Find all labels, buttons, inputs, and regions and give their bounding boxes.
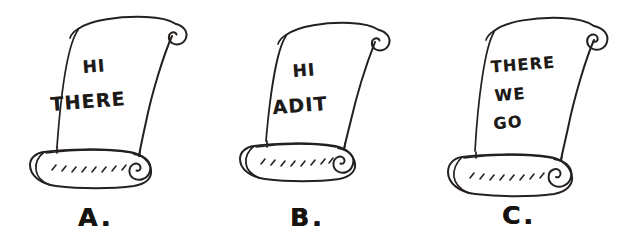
scroll-figure-a: HI THERE A. [0,0,214,252]
figure-label-c: C. [502,201,536,230]
scroll-figure-c: THERE WE GO C. [428,0,642,252]
illustration-canvas: HI THERE A. [0,0,642,252]
figure-label-b: B. [290,203,325,232]
paper-roll-hatching-b [261,158,333,166]
scroll-figure-b: HI ADIT B. [214,0,428,252]
paper-roll-hatching-c [470,173,544,180]
paper-roll-hatching-a [52,165,126,172]
figure-label-a: A. [78,203,113,232]
